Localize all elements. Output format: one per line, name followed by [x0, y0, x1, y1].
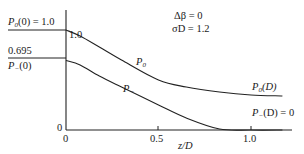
- x-tick-label-1.0: 1.0: [243, 134, 256, 145]
- x-tick-label-0: 0: [63, 134, 68, 145]
- x-tick-label-0.5: 0.5: [150, 134, 163, 145]
- label-p0-end: P0(D): [252, 82, 277, 93]
- label-pm-value: 0.695: [8, 46, 32, 57]
- subscript: 0: [142, 61, 146, 69]
- label-text: (0): [19, 60, 31, 71]
- x-axis-label: z/D: [178, 141, 193, 152]
- label-pm-initial: P−(0): [8, 61, 31, 72]
- label-text: (D) = 0: [263, 107, 294, 118]
- curve-p0: [66, 30, 282, 96]
- label-text: (D): [262, 81, 277, 92]
- label-text: (0) = 1.0: [18, 16, 55, 27]
- chart: P0(0) = 1.0 0.695 P−(0) 1.0 0 0 0.5 1.0 …: [0, 0, 304, 154]
- param-sigma-d: σD = 1.2: [172, 24, 210, 35]
- curve-label-pm: P−: [123, 84, 134, 95]
- subscript: −: [129, 88, 134, 96]
- label-p0-initial: P0(0) = 1.0: [8, 17, 54, 28]
- label-pm-end: P−(D) = 0: [252, 108, 294, 119]
- param-delta-beta: Δβ = 0: [174, 11, 203, 22]
- y-tick-label-1.0: 1.0: [69, 30, 82, 41]
- curve-label-p0: P0: [136, 57, 146, 68]
- y-tick-label-0: 0: [57, 123, 62, 134]
